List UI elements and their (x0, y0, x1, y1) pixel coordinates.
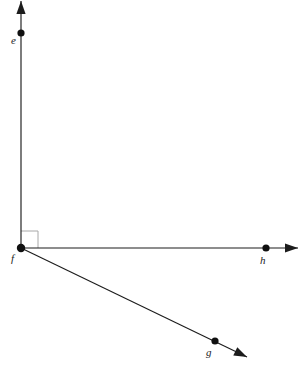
point-e-dot[interactable] (17, 29, 24, 36)
point-h-label: h (260, 254, 266, 266)
point-h-dot[interactable] (262, 244, 269, 251)
point-g-label: g (206, 346, 212, 358)
vertex-f-dot[interactable] (17, 244, 25, 252)
point-e-label: e (11, 34, 16, 46)
ray-fg-arrowhead-icon (233, 347, 247, 357)
vertex-f-label: f (11, 252, 16, 264)
ray-fh-arrowhead-icon (285, 243, 298, 252)
ray-fe-arrowhead-icon (16, 1, 25, 14)
geometry-canvas: e h g f (0, 0, 302, 374)
point-g-dot[interactable] (211, 337, 218, 344)
geometry-diagram: e h g f (0, 0, 302, 374)
